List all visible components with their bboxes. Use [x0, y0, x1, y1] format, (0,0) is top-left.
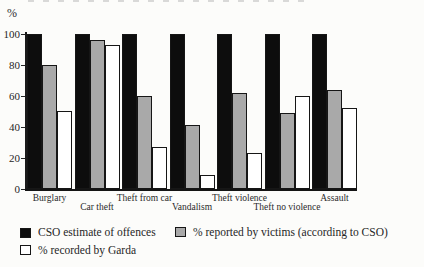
legend-label-recorded-by-garda: % recorded by Garda [38, 244, 136, 256]
legend-swatch-cso-estimate [20, 228, 31, 238]
legend-label-cso-estimate: CSO estimate of offences [38, 226, 156, 238]
legend: CSO estimate of offences % reported by v… [0, 0, 424, 267]
legend-label-reported-by-victims: % reported by victims (according to CSO) [193, 226, 388, 238]
legend-swatch-reported-by-victims [175, 227, 186, 237]
legend-swatch-recorded-by-garda [20, 245, 31, 255]
scanned-bar-chart-figure: % 020406080100 BurglaryCar theftTheft fr… [0, 0, 424, 267]
